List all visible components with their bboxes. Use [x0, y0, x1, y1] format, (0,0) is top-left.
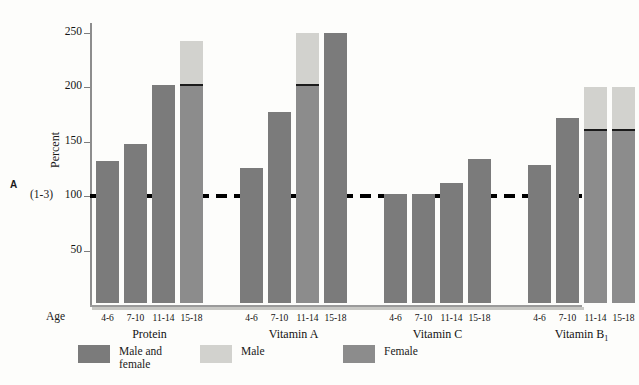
- bar-segment-male: [180, 41, 203, 85]
- y-tick-200: [84, 87, 90, 88]
- bar-segment-female: [296, 85, 319, 303]
- bar-segment-male: [296, 33, 319, 85]
- legend-swatch: [200, 345, 232, 363]
- bar-segment-female: [584, 130, 607, 303]
- bar: [124, 144, 147, 303]
- bar: [296, 33, 319, 303]
- bar: [440, 183, 463, 303]
- y-tick-150: [84, 142, 90, 143]
- legend-label: Female: [384, 345, 418, 358]
- legend: Male and femaleMaleFemale: [0, 345, 596, 381]
- legend-item-male-and-female: Male and female: [78, 345, 162, 370]
- y-tick-50: [84, 251, 90, 252]
- x-axis-shadow: [92, 307, 584, 310]
- bar: [468, 159, 491, 303]
- group-label-protein: Protein: [90, 327, 210, 342]
- bar: [612, 87, 635, 303]
- y-axis-label-wrap: Percent: [57, 0, 59, 307]
- bar: [384, 194, 407, 303]
- bar-female-marker-line: [296, 84, 319, 86]
- legend-swatch: [343, 345, 375, 363]
- bar: [268, 112, 291, 303]
- legend-label: Male: [241, 345, 265, 358]
- legend-swatch: [78, 345, 110, 363]
- bar: [180, 41, 203, 303]
- y-axis-ticks: 50100150200250: [0, 0, 90, 307]
- bar: [152, 85, 175, 303]
- bar-female-marker-line: [584, 129, 607, 131]
- legend-item-male: Male: [200, 345, 265, 363]
- plot-area: [92, 23, 580, 305]
- bar: [240, 168, 263, 303]
- bar: [528, 165, 551, 303]
- age-axis-caption: Age: [46, 310, 65, 322]
- bar: [412, 194, 435, 303]
- group-label-vitamin-b: Vitamin B1: [522, 327, 639, 343]
- bar: [556, 118, 579, 303]
- group-label-vitamin-c: Vitamin C: [378, 327, 498, 342]
- y-axis-label: Percent: [48, 132, 63, 168]
- age-label-15-18: 15-18: [606, 313, 639, 323]
- age-label-15-18: 15-18: [174, 313, 210, 323]
- bar: [324, 33, 347, 303]
- age-label-15-18: 15-18: [462, 313, 498, 323]
- legend-item-female: Female: [343, 345, 418, 363]
- y-tick-250: [84, 33, 90, 34]
- bar-segment-male: [584, 87, 607, 130]
- group-label-vitamin-a: Vitamin A: [234, 327, 354, 342]
- bar-female-marker-line: [612, 129, 635, 131]
- bar: [96, 161, 119, 303]
- reference-line-label: (1-3): [30, 188, 53, 200]
- bar-segment-female: [612, 130, 635, 303]
- age-label-15-18: 15-18: [318, 313, 354, 323]
- bar: [584, 87, 607, 303]
- legend-label: Male and female: [119, 345, 162, 370]
- x-axis-line: [90, 305, 582, 307]
- bar-segment-female: [180, 85, 203, 303]
- bar-female-marker-line: [180, 84, 203, 86]
- bar-segment-male: [612, 87, 635, 130]
